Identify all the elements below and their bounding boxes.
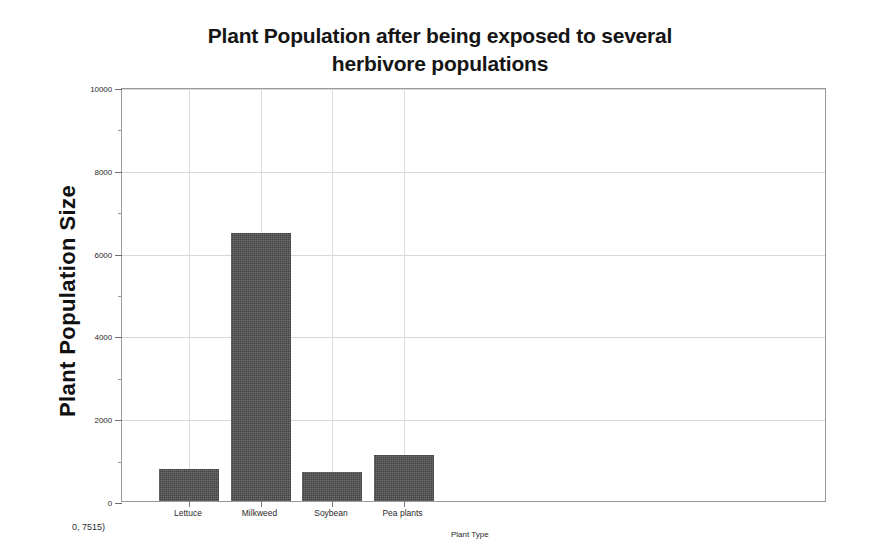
chart-title: Plant Population after being exposed to …: [95, 22, 785, 78]
gridline-horizontal: [122, 255, 825, 256]
y-tick-label: 2000: [95, 416, 112, 425]
y-tick-label: 6000: [95, 250, 112, 259]
y-axis-tick-major: [115, 420, 122, 421]
bar-lettuce: [159, 469, 219, 501]
y-axis-tick-minor: [118, 462, 122, 463]
x-tick-label: Soybean: [314, 508, 348, 518]
gridline-vertical: [404, 89, 405, 501]
y-axis-tick-major: [115, 172, 122, 173]
y-axis-tick-major: [115, 89, 122, 90]
x-axis-title: Plant Type: [451, 530, 489, 539]
y-axis-tick-minor: [118, 379, 122, 380]
gridline-horizontal: [122, 420, 825, 421]
x-tick-label: Milkweed: [242, 508, 277, 518]
x-tick-label: Lettuce: [174, 508, 202, 518]
gridline-horizontal: [122, 89, 825, 90]
chart-title-line-2: herbivore populations: [95, 50, 785, 78]
x-axis-tick: [404, 501, 405, 507]
gridline-vertical: [332, 89, 333, 501]
bar-milkweed: [231, 233, 291, 501]
y-tick-label: 0: [108, 499, 112, 508]
y-axis-tick-minor: [118, 296, 122, 297]
y-tick-label: 10000: [90, 85, 112, 94]
x-axis-tick: [332, 501, 333, 507]
x-axis-tick: [189, 501, 190, 507]
y-axis-tick-minor: [118, 130, 122, 131]
y-tick-label: 8000: [95, 167, 112, 176]
gridline-vertical: [189, 89, 190, 501]
corner-annotation: 0, 7515): [72, 522, 105, 532]
chart-title-line-1: Plant Population after being exposed to …: [95, 22, 785, 50]
plot-inner: 0200040006000800010000: [122, 89, 825, 501]
x-tick-label: Pea plants: [382, 508, 422, 518]
bar-pea-plants: [374, 455, 434, 501]
bar-chart-figure: Plant Population after being exposed to …: [0, 0, 871, 560]
gridline-horizontal: [122, 172, 825, 173]
gridline-horizontal: [122, 337, 825, 338]
y-axis-tick-minor: [118, 213, 122, 214]
bar-soybean: [302, 472, 362, 501]
plot-area: 0200040006000800010000: [121, 88, 826, 502]
x-axis-tick: [261, 501, 262, 507]
y-axis-tick-major: [115, 503, 122, 504]
y-axis-tick-major: [115, 337, 122, 338]
y-axis-tick-major: [115, 255, 122, 256]
y-axis-title: Plant Population Size: [55, 171, 81, 431]
y-tick-label: 4000: [95, 333, 112, 342]
